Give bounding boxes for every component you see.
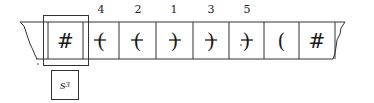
tape-cell-6: ( bbox=[264, 22, 299, 59]
state-box: s3 bbox=[51, 70, 79, 100]
order-label-cell-1: 4 bbox=[91, 3, 111, 16]
tape-cell-5: ) bbox=[229, 22, 264, 59]
tape-cell-3: ) bbox=[156, 22, 193, 59]
order-label-cell-4: 3 bbox=[201, 3, 221, 16]
tape-cell-0: # bbox=[48, 22, 83, 59]
cell-symbol: ) bbox=[171, 29, 179, 53]
order-label-cell-3: 1 bbox=[164, 3, 184, 16]
order-label-cell-5: 5 bbox=[237, 3, 257, 16]
tape-cell-2: ( bbox=[119, 22, 156, 59]
state-subscript: 3 bbox=[66, 81, 70, 89]
cell-symbol: ) bbox=[207, 29, 215, 53]
order-label-cell-2: 2 bbox=[128, 3, 148, 16]
cell-symbol: # bbox=[309, 29, 326, 53]
cell-symbol: ( bbox=[97, 29, 105, 53]
tape-cell-7: # bbox=[299, 22, 335, 59]
tape-cell-1: ( bbox=[83, 22, 119, 59]
cell-symbol: ( bbox=[278, 29, 286, 53]
tape-cell-4: ) bbox=[193, 22, 229, 59]
cell-symbol: ) bbox=[243, 29, 251, 53]
tape-torn-left-edge bbox=[20, 22, 37, 59]
cell-symbol: ( bbox=[134, 29, 142, 53]
cell-symbol: # bbox=[57, 29, 74, 53]
